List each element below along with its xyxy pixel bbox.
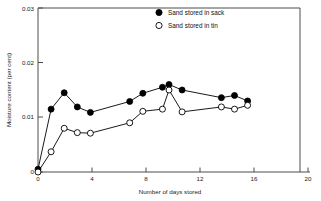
- data-point: [74, 130, 80, 136]
- data-point: [48, 149, 54, 155]
- y-tick-label-0: 0: [31, 168, 35, 175]
- data-series-layer: [35, 82, 251, 175]
- series-tin: [35, 87, 251, 175]
- data-point: [35, 169, 41, 175]
- legend-label-tin: Sand stored in tin: [168, 22, 218, 29]
- data-point: [74, 104, 80, 110]
- chart-legend: Sand stored in sack Sand stored in tin: [156, 9, 225, 29]
- data-point: [179, 87, 185, 93]
- data-point: [159, 84, 165, 90]
- data-point: [127, 120, 133, 126]
- data-point: [127, 98, 133, 104]
- x-tick-label-20: 20: [305, 175, 312, 182]
- axis-frame: [38, 8, 310, 172]
- y-axis-title: Moisture content (per cent): [5, 53, 12, 127]
- data-point: [159, 106, 165, 112]
- data-point: [218, 104, 224, 110]
- x-tick-label-12: 12: [197, 175, 204, 182]
- data-point: [232, 92, 238, 98]
- x-axis-ticks: 0 4 8 12 16 20: [36, 168, 312, 183]
- moisture-content-line-chart: 0 0.01 0.02 0.03 0 4 8 12 16 20 Number o…: [0, 0, 321, 201]
- x-tick-label-8: 8: [144, 175, 148, 182]
- y-axis-ticks: 0 0.01 0.02 0.03: [22, 5, 43, 176]
- data-point: [87, 130, 93, 136]
- y-tick-label-3: 0.03: [22, 5, 35, 12]
- data-point: [140, 108, 146, 114]
- x-axis-title: Number of days stored: [139, 188, 202, 195]
- y-tick-label-2: 0.02: [22, 59, 35, 66]
- legend-marker-filled-circle-icon: [156, 9, 162, 15]
- data-point: [166, 87, 172, 93]
- series-line: [38, 85, 248, 170]
- legend-label-sack: Sand stored in sack: [168, 9, 225, 16]
- series-line: [38, 90, 248, 172]
- x-tick-label-0: 0: [36, 175, 40, 182]
- legend-marker-open-circle-icon: [156, 22, 162, 28]
- data-point: [179, 109, 185, 115]
- data-point: [61, 90, 67, 96]
- data-point: [87, 109, 93, 115]
- data-point: [218, 95, 224, 101]
- chart-figure: 0 0.01 0.02 0.03 0 4 8 12 16 20 Number o…: [0, 0, 321, 201]
- data-point: [245, 102, 251, 108]
- x-tick-label-16: 16: [251, 175, 258, 182]
- data-point: [48, 106, 54, 112]
- data-point: [232, 106, 238, 112]
- data-point: [61, 125, 67, 131]
- x-tick-label-4: 4: [90, 175, 94, 182]
- data-point: [140, 90, 146, 96]
- y-tick-label-1: 0.01: [22, 113, 35, 120]
